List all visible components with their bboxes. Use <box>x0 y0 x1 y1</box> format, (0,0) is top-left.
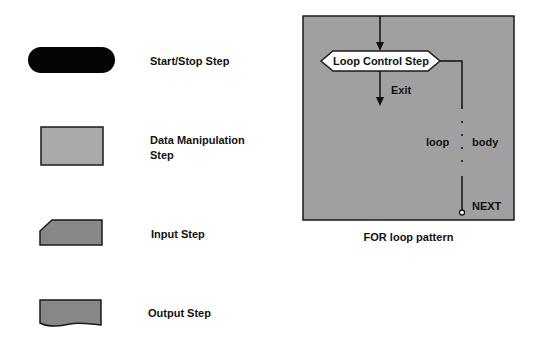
loop-label: loop <box>426 135 449 149</box>
data-manipulation-label-line1: Data Manipulation <box>150 133 245 147</box>
next-label: NEXT <box>472 199 501 213</box>
loop-dot <box>461 121 463 123</box>
input-step-label: Input Step <box>151 227 205 241</box>
start-stop-label: Start/Stop Step <box>150 54 229 68</box>
loop-dot <box>461 134 463 136</box>
loop-dot <box>461 160 463 162</box>
input-shape <box>40 220 102 245</box>
for-loop-panel <box>303 16 514 220</box>
output-shape <box>40 300 101 326</box>
for-loop-caption: FOR loop pattern <box>303 230 514 244</box>
next-connector-icon <box>460 210 465 215</box>
loop-dot <box>461 147 463 149</box>
diagram-canvas <box>0 0 540 353</box>
start-stop-shape <box>28 47 115 73</box>
loop-control-label: Loop Control Step <box>333 54 428 68</box>
exit-label: Exit <box>391 83 411 97</box>
output-step-label: Output Step <box>148 306 211 320</box>
data-manipulation-label-line2: Step <box>150 148 174 162</box>
body-label: body <box>472 135 498 149</box>
data-manipulation-shape <box>41 127 103 165</box>
